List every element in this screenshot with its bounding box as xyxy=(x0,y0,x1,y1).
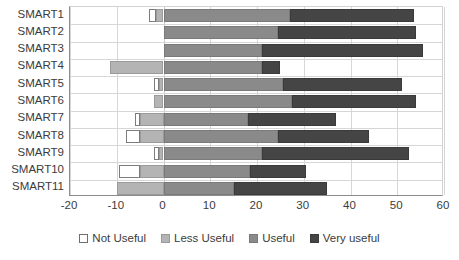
legend-item-veryuseful[interactable]: Very useful xyxy=(310,232,380,244)
bar-segment-useful xyxy=(164,44,262,57)
bar-segment-veryuseful xyxy=(262,147,409,160)
gridline-vertical xyxy=(444,7,445,195)
y-axis-label-smart2: SMART2 xyxy=(18,26,64,38)
bar-segment-veryuseful xyxy=(278,130,369,143)
stacked-bar xyxy=(70,44,442,57)
x-axis-tick-20: 20 xyxy=(250,199,263,211)
x-axis-tick-neg20: -20 xyxy=(61,199,78,211)
bar-segment-useful xyxy=(164,113,248,126)
bar-row xyxy=(70,128,442,145)
bar-segment-veryuseful xyxy=(262,61,281,74)
bar-segment-useful xyxy=(164,147,262,160)
stacked-bar xyxy=(70,147,442,160)
bar-row xyxy=(70,162,442,179)
bar-row xyxy=(70,76,442,93)
legend-swatch-lessuseful-icon xyxy=(161,234,170,243)
x-axis-tick-50: 50 xyxy=(390,199,403,211)
bar-segment-notuseful xyxy=(119,165,140,178)
legend-label: Useful xyxy=(262,232,295,244)
plot-area xyxy=(69,6,443,196)
y-axis-category-labels: SMART1SMART2SMART3SMART4SMART5SMART6SMAR… xyxy=(0,6,66,196)
stacked-bar xyxy=(70,113,442,126)
legend-label: Less Useful xyxy=(174,232,234,244)
stacked-bar xyxy=(70,130,442,143)
x-axis-tick-10: 10 xyxy=(203,199,216,211)
bar-segment-veryuseful xyxy=(292,95,416,108)
bar-segment-veryuseful xyxy=(278,26,416,39)
x-axis-tick-40: 40 xyxy=(343,199,356,211)
legend-item-notuseful[interactable]: Not Useful xyxy=(79,232,146,244)
bar-segment-lessuseful xyxy=(156,9,163,22)
stacked-bar xyxy=(70,78,442,91)
bar-segment-lessuseful xyxy=(110,61,164,74)
bar-segment-useful xyxy=(164,26,279,39)
bar-segment-veryuseful xyxy=(262,44,423,57)
y-axis-label-smart11: SMART11 xyxy=(12,181,64,193)
stacked-bar xyxy=(70,165,442,178)
bar-row xyxy=(70,111,442,128)
y-axis-label-smart8: SMART8 xyxy=(18,130,64,142)
bar-segment-useful xyxy=(164,165,250,178)
bar-segment-useful xyxy=(164,9,290,22)
bar-segment-useful xyxy=(164,78,283,91)
x-axis-tick-0: 0 xyxy=(159,199,165,211)
bar-segment-lessuseful xyxy=(140,165,163,178)
y-axis-label-smart1: SMART1 xyxy=(18,9,64,21)
legend-item-useful[interactable]: Useful xyxy=(249,232,295,244)
bar-segment-notuseful xyxy=(149,9,156,22)
y-axis-label-smart3: SMART3 xyxy=(18,43,64,55)
y-axis-label-smart5: SMART5 xyxy=(18,78,64,90)
bar-segment-veryuseful xyxy=(290,9,414,22)
y-axis-label-smart9: SMART9 xyxy=(18,147,64,159)
bar-segment-lessuseful xyxy=(117,182,164,195)
stacked-bar xyxy=(70,182,442,195)
legend-item-lessuseful[interactable]: Less Useful xyxy=(161,232,234,244)
x-axis-tick-labels: -20-100102030405060 xyxy=(0,199,459,215)
bar-row xyxy=(70,24,442,41)
bar-row xyxy=(70,180,442,197)
bar-segment-veryuseful xyxy=(248,113,337,126)
stacked-bar xyxy=(70,26,442,39)
bar-segment-useful xyxy=(164,130,279,143)
stacked-bar xyxy=(70,61,442,74)
bar-segment-useful xyxy=(164,95,293,108)
legend-swatch-useful-icon xyxy=(249,234,258,243)
y-axis-label-smart7: SMART7 xyxy=(18,112,64,124)
legend-swatch-notuseful-icon xyxy=(79,234,88,243)
bar-segment-useful xyxy=(164,61,262,74)
legend-label: Very useful xyxy=(323,232,380,244)
bar-row xyxy=(70,59,442,76)
bar-segment-notuseful xyxy=(126,130,140,143)
bar-segment-veryuseful xyxy=(234,182,328,195)
legend-label: Not Useful xyxy=(92,232,146,244)
bar-row xyxy=(70,93,442,110)
bar-row xyxy=(70,7,442,24)
bar-segment-lessuseful xyxy=(154,95,163,108)
x-axis-tick-60: 60 xyxy=(437,199,450,211)
bar-segment-useful xyxy=(164,182,234,195)
bar-segment-lessuseful xyxy=(140,113,163,126)
stacked-bar xyxy=(70,95,442,108)
x-axis-tick-30: 30 xyxy=(296,199,309,211)
stacked-bar-chart: SMART1SMART2SMART3SMART4SMART5SMART6SMAR… xyxy=(0,0,459,260)
bar-segment-veryuseful xyxy=(250,165,306,178)
y-axis-label-smart4: SMART4 xyxy=(18,60,64,72)
x-axis-tick-neg10: -10 xyxy=(107,199,124,211)
y-axis-label-smart6: SMART6 xyxy=(18,95,64,107)
bar-row xyxy=(70,145,442,162)
chart-legend: Not UsefulLess UsefulUsefulVery useful xyxy=(0,232,459,244)
bar-row xyxy=(70,42,442,59)
bar-segment-veryuseful xyxy=(283,78,402,91)
bar-segment-lessuseful xyxy=(140,130,163,143)
legend-swatch-veryuseful-icon xyxy=(310,234,319,243)
y-axis-label-smart10: SMART10 xyxy=(11,164,64,176)
stacked-bar xyxy=(70,9,442,22)
